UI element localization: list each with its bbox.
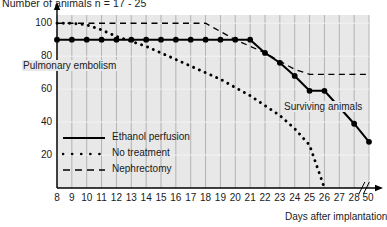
legend-key-dotted (62, 146, 106, 162)
legend-label-ethanol-perfusion: Ethanol perfusion (112, 131, 190, 142)
y-tick-label: 20 (26, 149, 52, 160)
annotation-surviving-animals: Surviving animals (283, 101, 363, 112)
y-tick-label: 60 (26, 83, 52, 94)
legend-label-nephrectomy: Nephrectomy (112, 163, 171, 174)
x-tick-label: 50 (357, 192, 379, 203)
legend-label-no-treatment: No treatment (112, 147, 170, 158)
annotation-pulmonary-embolism: Pulmonary embolism (22, 60, 117, 71)
legend-key-solid (62, 130, 106, 146)
legend-key-dashed (62, 162, 106, 178)
y-tick-label: 100 (26, 17, 52, 28)
y-tick-label: 40 (26, 116, 52, 127)
x-axis-title: Days after implantation (285, 211, 387, 222)
